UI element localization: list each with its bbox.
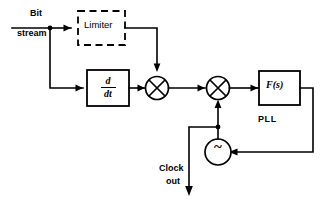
vco-waveform-icon: ~ [207, 140, 229, 155]
mixer-1 [146, 77, 169, 100]
arrowhead-mixer2-left-input [198, 85, 206, 92]
wire-vco-to-mixer2 [215, 100, 222, 140]
wire-input-to-differentiator [50, 28, 83, 91]
loop-filter-label: F(s) [266, 80, 283, 90]
arrowhead-loopfilter-input [251, 85, 259, 92]
differentiator-label: d dt [95, 75, 121, 99]
clock-recovery-block-diagram: Bit stream Limiter d dt F(s) PLL ~ Clock… [0, 0, 329, 203]
differentiator-denominator: dt [95, 88, 121, 99]
wire-limiter-to-mixer1 [125, 28, 160, 72]
pll-group-label: PLL [258, 114, 277, 124]
input-label-stream: stream [17, 28, 47, 38]
limiter-label: Limiter [84, 20, 113, 31]
differentiator-numerator: d [95, 75, 121, 86]
arrowhead-limiter-input [64, 25, 72, 32]
arrowhead-mixer1-left-input [138, 85, 146, 92]
wire-mixer1-to-mixer2 [169, 85, 206, 92]
arrowhead-clock-out [185, 186, 193, 196]
wire-differentiator-to-mixer1 [129, 85, 145, 92]
arrowhead-mixer2-bottom-input [215, 100, 222, 109]
arrowhead-mixer1-top-input [154, 64, 161, 73]
input-label-bit: Bit [30, 8, 42, 18]
output-label-clock: Clock [159, 163, 184, 173]
output-label-out: out [166, 176, 180, 186]
arrowhead-differentiator-input [76, 85, 84, 92]
wire-mixer2-to-loopfilter [230, 85, 259, 92]
wire-input-to-limiter [50, 25, 71, 32]
mixer-2 [207, 77, 230, 100]
